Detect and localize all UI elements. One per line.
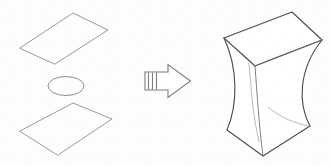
upper-directrix-quadrilateral bbox=[20, 13, 108, 64]
transformation-arrow bbox=[145, 65, 191, 98]
exploded-generator-elements bbox=[20, 13, 112, 155]
circular-waist-directrix bbox=[48, 77, 84, 96]
arrow-body bbox=[145, 65, 191, 98]
lower-directrix-quadrilateral bbox=[20, 103, 112, 155]
figure-root bbox=[0, 0, 332, 166]
hyperboloid-of-one-sheet bbox=[224, 12, 322, 156]
geometry-diagram bbox=[0, 0, 332, 166]
